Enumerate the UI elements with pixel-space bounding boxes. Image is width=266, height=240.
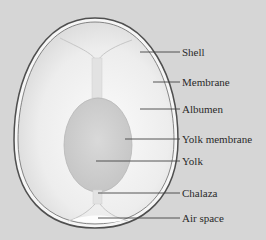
label-membrane: Membrane	[182, 76, 230, 88]
chalaza-top	[92, 58, 102, 98]
label-air-space: Air space	[182, 212, 224, 224]
chalaza-bottom	[93, 190, 102, 204]
label-shell: Shell	[182, 46, 205, 58]
label-yolk-membrane: Yolk membrane	[182, 133, 252, 145]
yolk	[64, 98, 132, 192]
egg-diagram: Shell Membrane Albumen Yolk membrane Yol…	[0, 0, 266, 240]
label-yolk: Yolk	[182, 155, 203, 167]
egg-illustration	[0, 0, 266, 240]
label-chalaza: Chalaza	[182, 187, 217, 199]
label-albumen: Albumen	[182, 103, 223, 115]
